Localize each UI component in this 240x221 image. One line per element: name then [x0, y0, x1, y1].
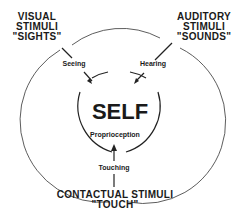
- outer-circle-arc-top: [72, 28, 160, 45]
- arrow-touching-icon: [111, 144, 117, 151]
- contactual-stimuli-label: CONTACTUAL STIMULI "TOUCH": [40, 190, 190, 210]
- touching-label: Touching: [94, 163, 134, 173]
- outer-circle-arc-left: [20, 50, 110, 202]
- inner-arc-top-left: [92, 72, 108, 78]
- auditory-stimuli-label: AUDITORY STIMULI "SOUNDS": [170, 12, 238, 42]
- visual-line3: "SIGHTS": [8, 32, 66, 42]
- auditory-line3: "SOUNDS": [170, 32, 238, 42]
- visual-stimuli-label: VISUAL STIMULI "SIGHTS": [8, 12, 66, 42]
- seeing-label: Seeing: [58, 59, 90, 69]
- proprioception-label: Proprioception: [80, 130, 150, 140]
- self-label: SELF: [80, 100, 160, 124]
- outer-circle-arc-right: [128, 48, 226, 204]
- hearing-label: Hearing: [136, 59, 170, 69]
- contactual-line2: "TOUCH": [40, 200, 190, 210]
